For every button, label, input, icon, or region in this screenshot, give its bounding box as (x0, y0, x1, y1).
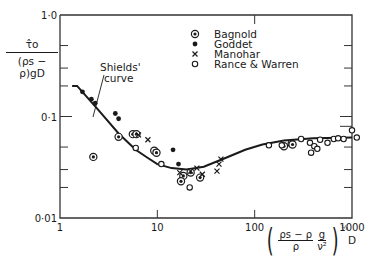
tick-labels: 11010010000·010·11·0 (35, 10, 365, 233)
x-tick-label: 100 (245, 222, 264, 233)
shields-curve (72, 86, 352, 170)
x-label-exponent: ⅓ (341, 224, 348, 232)
shields-annotation: Shields' curve (93, 61, 141, 117)
data-point-core (179, 180, 182, 183)
data-point (171, 147, 176, 152)
data-point (354, 135, 359, 140)
data-point (298, 136, 303, 141)
series-manohar (136, 132, 223, 176)
y-label-denominator: (ρs − ρ)gD (6, 53, 58, 79)
frac2-denominator: ν² (317, 241, 327, 252)
legend: BagnoldGoddetManoharRance & Warren (191, 28, 298, 70)
legend-marker-cross-icon (193, 52, 198, 57)
x-tick-label: 10 (151, 222, 164, 233)
data-point (116, 116, 121, 121)
y-tick-label: 1·0 (41, 10, 57, 21)
legend-marker-circled-dot-icon-core (193, 32, 196, 35)
data-point (187, 185, 192, 190)
x-label-fraction-1: ρs − ρ ρ (278, 229, 313, 252)
legend-marker-filled-dot-icon (193, 42, 198, 47)
y-label-numerator: τ̂o (6, 38, 58, 53)
series-bagnold (90, 131, 296, 185)
data-point (266, 143, 271, 148)
data-point-core (155, 151, 158, 154)
left-paren: ( (267, 224, 274, 256)
frac2-numerator: g (318, 229, 326, 241)
data-point (80, 89, 85, 94)
x-axis-label: ( ρs − ρ ρ g ν² ) ⅓ D (264, 224, 356, 256)
x-label-fraction-2: g ν² (317, 229, 327, 252)
data-point (325, 140, 330, 145)
data-point (133, 145, 138, 150)
data-point (335, 136, 340, 141)
y-tick-label: 0·01 (35, 213, 57, 224)
series-rance-warren (133, 128, 359, 190)
data-point (308, 150, 313, 155)
frac1-numerator: ρs − ρ (278, 229, 313, 241)
y-axis-label: τ̂o (ρs − ρ)gD (6, 38, 58, 79)
legend-item: Rance & Warren (192, 58, 298, 70)
data-point (89, 97, 94, 102)
data-point (216, 162, 221, 167)
data-point-core (291, 143, 294, 146)
data-point (279, 143, 284, 148)
legend-marker-open-circle-icon (192, 61, 197, 66)
data-point-core (92, 155, 95, 158)
data-points (80, 89, 359, 190)
data-point (214, 169, 219, 174)
data-point (315, 146, 320, 151)
legend-label: Rance & Warren (214, 58, 299, 70)
data-point (317, 137, 322, 142)
data-point (159, 161, 164, 166)
data-point (176, 162, 181, 167)
y-tick-label: 0·1 (41, 112, 57, 123)
frac1-denominator: ρ (293, 241, 299, 252)
data-point-core (117, 135, 120, 138)
data-point (113, 111, 118, 116)
data-point (145, 137, 150, 142)
annotation-line2: curve (104, 72, 133, 84)
data-point (341, 136, 346, 141)
right-paren: ) (332, 224, 339, 256)
data-point (349, 128, 354, 133)
x-tick-label: 1 (57, 222, 63, 233)
x-label-suffix: D (348, 234, 356, 246)
